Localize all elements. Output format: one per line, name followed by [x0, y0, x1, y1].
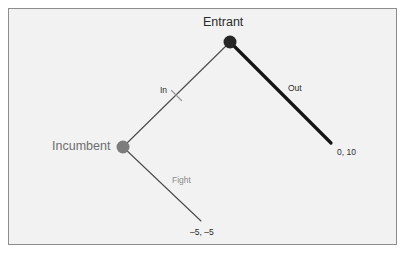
- node-label-entrant: Entrant: [203, 16, 243, 29]
- node-label-incumbent: Incumbent: [52, 140, 110, 153]
- branch-label-in: In: [160, 86, 167, 95]
- payoff-label-out: 0, 10: [337, 148, 356, 157]
- node-entrant: [224, 36, 237, 49]
- branch-line-out: [230, 42, 331, 143]
- node-incumbent: [117, 141, 130, 154]
- diagram-canvas: Entrant Incumbent In Out Fight 0, 10 –5,…: [0, 0, 407, 255]
- pruning-mark-icon: [172, 91, 182, 101]
- branch-label-out: Out: [288, 84, 302, 93]
- branch-line-in: [123, 42, 230, 147]
- branch-label-fight: Fight: [172, 176, 191, 185]
- game-tree-graphic: [0, 0, 407, 255]
- payoff-label-fight: –5, –5: [190, 228, 214, 237]
